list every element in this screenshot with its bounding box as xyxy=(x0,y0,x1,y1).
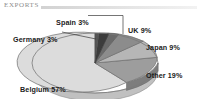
pie-chart-area: Spain 3% UK 9% Germany 3% Japan 9% Other… xyxy=(0,8,205,99)
slice-label-spain: Spain 3% xyxy=(56,19,89,27)
slice-label-other: Other 19% xyxy=(146,72,182,80)
slice-label-uk: UK 9% xyxy=(128,27,151,35)
slice-label-germany: Germany 3% xyxy=(13,36,58,44)
slice-label-belgium: Belgium 57% xyxy=(20,86,66,94)
slice-label-japan: Japan 9% xyxy=(146,44,180,52)
leader-line-spain xyxy=(88,16,123,35)
exports-pie-chart-figure: EXPORTS xyxy=(0,0,205,99)
